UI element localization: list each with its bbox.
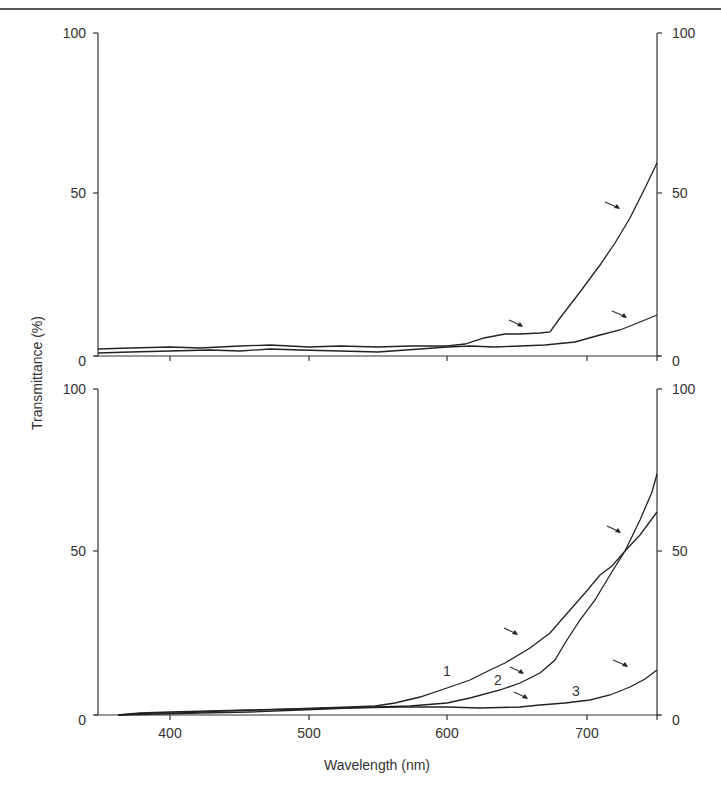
x-tick-500: 500 bbox=[297, 725, 321, 741]
bottom-left-y-tick-0: 0 bbox=[78, 712, 86, 728]
bottom-arrow-curve-3-end-icon bbox=[613, 660, 628, 667]
curve-3-label: 3 bbox=[572, 683, 580, 699]
top-upper-curve bbox=[98, 163, 657, 349]
x-tick-700: 700 bbox=[575, 725, 599, 741]
curve-1-label: 1 bbox=[443, 663, 451, 679]
top-arrow-3-icon bbox=[612, 311, 627, 318]
bottom-left-y-tick-50: 50 bbox=[70, 543, 86, 559]
top-arrow-1-icon bbox=[509, 320, 523, 327]
transmittance-chart: 100 50 0 100 50 0 bbox=[0, 0, 721, 800]
bottom-right-y-tick-100: 100 bbox=[672, 381, 696, 397]
curve-2-label: 2 bbox=[494, 672, 502, 688]
bottom-arrow-curve-1-icon bbox=[504, 628, 518, 635]
top-left-y-tick-0: 0 bbox=[78, 353, 86, 369]
top-right-y-tick-0: 0 bbox=[672, 353, 680, 369]
top-left-y-tick-50: 50 bbox=[70, 185, 86, 201]
x-tick-600: 600 bbox=[435, 725, 459, 741]
bottom-right-y-tick-50: 50 bbox=[672, 543, 688, 559]
x-tick-400: 400 bbox=[158, 725, 182, 741]
x-axis-title: Wavelength (nm) bbox=[324, 757, 430, 773]
bottom-panel: 100 50 0 100 50 0 400 500 600 700 1 2 3 bbox=[63, 381, 696, 741]
bottom-arrow-curve-2-icon bbox=[510, 667, 524, 674]
y-axis-title: Transmittance (%) bbox=[29, 316, 45, 430]
bottom-arrow-crossing-icon bbox=[607, 526, 621, 533]
top-right-y-tick-100: 100 bbox=[672, 25, 696, 41]
curve-2 bbox=[118, 474, 657, 715]
top-panel: 100 50 0 100 50 0 bbox=[63, 25, 696, 369]
bottom-left-y-tick-100: 100 bbox=[63, 381, 87, 397]
bottom-arrow-curve-3-icon bbox=[514, 692, 528, 699]
bottom-right-y-tick-0: 0 bbox=[672, 712, 680, 728]
top-arrow-2-icon bbox=[605, 202, 620, 209]
top-left-y-tick-100: 100 bbox=[63, 25, 87, 41]
top-right-y-tick-50: 50 bbox=[672, 185, 688, 201]
